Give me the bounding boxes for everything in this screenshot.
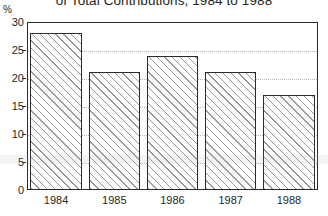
y-tick-label-30: 30 — [2, 17, 24, 28]
bar-1986 — [147, 56, 199, 190]
y-tick-mark-25 — [22, 50, 26, 51]
bar-1988 — [263, 95, 315, 190]
y-tick-label-10: 10 — [2, 129, 24, 140]
x-tick-label-1988: 1988 — [260, 194, 318, 206]
y-axis-unit-label: % — [3, 5, 12, 15]
y-tick-label-5: 5 — [2, 157, 24, 168]
bar-chart: of Total Contributions, 1984 to 1988 % 0… — [0, 0, 328, 216]
x-tick-label-1984: 1984 — [27, 194, 85, 206]
bars-group — [27, 22, 318, 190]
y-tick-mark-5 — [22, 162, 26, 163]
bar-1984 — [30, 33, 82, 190]
y-tick-label-15: 15 — [2, 101, 24, 112]
x-tick-label-1987: 1987 — [202, 194, 260, 206]
y-tick-label-25: 25 — [2, 45, 24, 56]
bar-1987 — [205, 72, 257, 190]
y-tick-label-0: 0 — [2, 185, 24, 196]
y-tick-label-20: 20 — [2, 73, 24, 84]
y-tick-mark-20 — [22, 78, 26, 79]
chart-title: of Total Contributions, 1984 to 1988 — [0, 0, 328, 9]
x-tick-label-1985: 1985 — [85, 194, 143, 206]
x-tick-label-1986: 1986 — [143, 194, 201, 206]
y-tick-mark-10 — [22, 134, 26, 135]
bar-1985 — [89, 72, 141, 190]
y-tick-mark-15 — [22, 106, 26, 107]
